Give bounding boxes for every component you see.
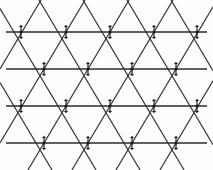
lattice-diagram-canvas [0, 0, 213, 170]
diagram-background [0, 0, 213, 170]
lattice-figure [0, 0, 213, 170]
